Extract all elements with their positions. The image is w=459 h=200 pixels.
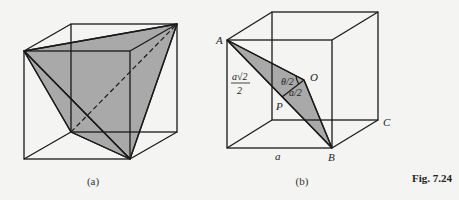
panel-b: A O P B C a θ/2 a/2 a√2 2 (b) xyxy=(215,12,391,188)
cube-b-back-face xyxy=(272,12,378,120)
cube-b-edge-tl xyxy=(227,12,272,40)
label-edge-a: a xyxy=(275,150,281,162)
caption-b: (b) xyxy=(296,175,309,188)
label-A: A xyxy=(215,34,223,46)
panel-a: (a) xyxy=(24,24,177,188)
label-P: P xyxy=(275,100,283,112)
figure-canvas: (a) A O P B C a θ/2 a/2 a√2 2 (b) Fig. 7… xyxy=(0,0,459,200)
segment-ab xyxy=(227,40,332,148)
label-B: B xyxy=(328,151,335,163)
cube-a-edge-bl xyxy=(24,132,71,159)
label-half-diag-den: 2 xyxy=(237,85,242,96)
cube-b-edge-bl xyxy=(227,120,272,148)
label-O: O xyxy=(310,71,318,83)
label-C: C xyxy=(383,116,391,128)
label-half-edge: a/2 xyxy=(289,87,302,98)
cube-b-edge-tr xyxy=(332,12,378,40)
label-half-diag-num: a√2 xyxy=(232,71,248,82)
caption-a: (a) xyxy=(87,175,100,188)
figure-label: Fig. 7.24 xyxy=(412,172,453,184)
label-angle: θ/2 xyxy=(281,76,294,87)
cube-b-edge-br xyxy=(332,120,378,148)
